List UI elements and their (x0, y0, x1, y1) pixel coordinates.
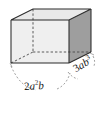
width-dimension-leader-right (57, 73, 70, 89)
prism-figure: 2a2b 3ab3 (0, 0, 105, 114)
front-face (11, 20, 69, 63)
depth-dimension-leader-upper (93, 56, 95, 66)
depth-leader-tick-right (90, 53, 94, 55)
width-label: 2a2b (24, 80, 44, 92)
width-label-base-b: b (38, 79, 44, 91)
